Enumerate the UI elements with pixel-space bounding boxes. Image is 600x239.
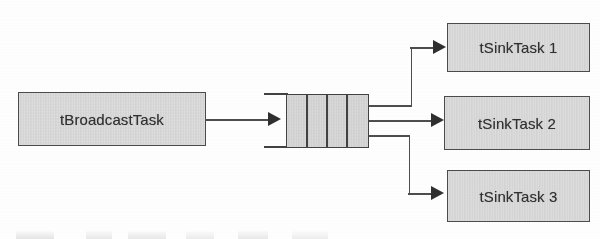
caption-remnant	[16, 231, 346, 239]
node-sink-task-2-label: tSinkTask 2	[478, 115, 556, 132]
node-sink-task-3[interactable]: tSinkTask 3	[447, 170, 590, 222]
connector-queue-to-sink-2-line	[369, 120, 435, 122]
queue-cell-divider-2	[326, 95, 328, 147]
queue-rail-top	[264, 93, 288, 95]
node-sink-task-1[interactable]: tSinkTask 1	[447, 23, 590, 72]
connector-queue-to-sink-3-stub	[369, 135, 410, 137]
node-sink-task-1-label: tSinkTask 1	[480, 39, 558, 56]
node-broadcast-task[interactable]: tBroadcastTask	[18, 92, 206, 146]
connector-broadcast-to-queue-arrowhead	[268, 112, 281, 126]
connector-broadcast-to-queue-line	[206, 119, 270, 121]
connector-queue-to-sink-1-arrowhead	[433, 40, 446, 54]
connector-queue-to-sink-1-riser	[411, 47, 413, 106]
queue-cell-divider-1	[306, 95, 308, 147]
connector-queue-to-sink-3-drop	[409, 135, 411, 194]
connector-queue-to-sink-2-arrowhead	[431, 113, 444, 127]
queue-body	[286, 94, 369, 148]
diagram-canvas: tBroadcastTask tSinkTask 1 tSinkTask 2 t…	[0, 0, 600, 239]
queue-rail-bottom	[264, 146, 288, 148]
node-sink-task-3-label: tSinkTask 3	[480, 188, 558, 205]
node-sink-task-2[interactable]: tSinkTask 2	[444, 96, 590, 150]
connector-queue-to-sink-1-stub	[369, 105, 412, 107]
node-broadcast-task-label: tBroadcastTask	[60, 111, 164, 128]
queue-cell-divider-3	[346, 95, 348, 147]
connector-queue-to-sink-3-arrowhead	[431, 186, 444, 200]
